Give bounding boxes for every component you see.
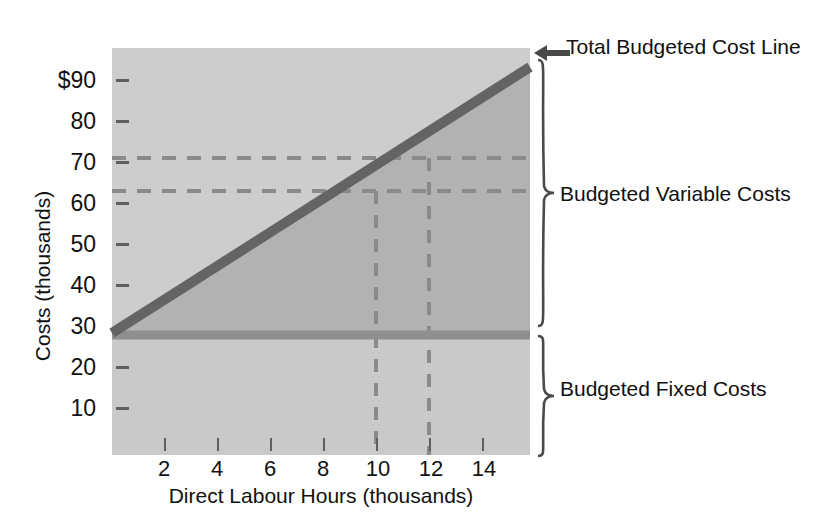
x-tick-6 — [270, 438, 272, 451]
variable-costs-brace — [535, 58, 557, 328]
y-tick-label-90: $90 — [0, 67, 96, 94]
y-axis-title: Costs (thousands) — [31, 161, 55, 391]
x-tick-label-4: 4 — [211, 456, 223, 482]
x-tick-label-10: 10 — [366, 456, 390, 482]
variable-costs-label: Budgeted Variable Costs — [560, 182, 791, 206]
y-tick-50 — [116, 243, 129, 246]
x-tick-10 — [376, 438, 378, 451]
x-tick-label-8: 8 — [317, 456, 329, 482]
x-tick-label-12: 12 — [419, 456, 443, 482]
x-tick-2 — [164, 438, 166, 451]
fixed-cost-region — [112, 333, 530, 455]
cost-behaviour-chart: $90 80 70 60 50 40 30 20 10 2 4 6 8 10 1… — [0, 0, 836, 529]
y-axis-tick-labels: $90 80 70 60 50 40 30 20 10 — [0, 0, 112, 529]
y-tick-90 — [116, 79, 129, 82]
plot-regions — [112, 48, 530, 455]
x-tick-label-2: 2 — [158, 456, 170, 482]
y-tick-70 — [116, 161, 129, 164]
plot-area — [112, 48, 530, 455]
x-tick-4 — [217, 438, 219, 451]
x-tick-8 — [323, 438, 325, 451]
x-tick-12 — [429, 438, 431, 451]
y-tick-20 — [116, 366, 129, 369]
y-tick-60 — [116, 202, 129, 205]
y-tick-80 — [116, 120, 129, 123]
x-axis-title: Direct Labour Hours (thousands) — [112, 484, 530, 508]
x-tick-label-14: 14 — [472, 456, 496, 482]
y-tick-label-80: 80 — [0, 108, 96, 135]
x-tick-label-6: 6 — [264, 456, 276, 482]
y-tick-40 — [116, 284, 129, 287]
y-tick-10 — [116, 407, 129, 410]
total-cost-line-label: Total Budgeted Cost Line — [566, 35, 801, 59]
x-tick-14 — [482, 438, 484, 451]
fixed-costs-label: Budgeted Fixed Costs — [560, 377, 767, 401]
fixed-costs-brace — [535, 334, 557, 458]
y-tick-label-10: 10 — [0, 395, 96, 422]
